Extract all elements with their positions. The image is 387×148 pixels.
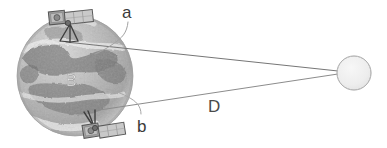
figure-canvas: B <box>0 0 387 148</box>
diagram-svg: B <box>0 0 387 148</box>
earth-label-text: B <box>66 72 77 89</box>
label-a: a <box>122 4 131 21</box>
label-distance-d: D <box>208 98 220 115</box>
far-body-circle <box>337 56 371 90</box>
label-b: b <box>137 118 146 135</box>
